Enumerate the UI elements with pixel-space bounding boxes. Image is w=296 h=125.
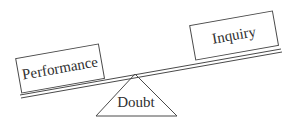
fulcrum-label: Doubt [117, 94, 155, 110]
fulcrum-triangle: Doubt [96, 74, 177, 116]
left-box-label: Performance [21, 53, 100, 82]
right-box-label: Inquiry [211, 23, 258, 47]
seesaw-diagram: Doubt Performance Inquiry [0, 0, 296, 125]
right-box-inquiry: Inquiry [190, 11, 279, 60]
